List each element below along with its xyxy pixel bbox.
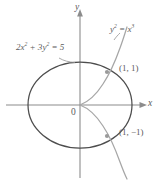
- origin-label: 0: [71, 108, 76, 118]
- plot-canvas: [0, 0, 160, 181]
- analytic-geometry-figure: y x 0 2x2 + 3y2 = 5 y2 = x3 (1, 1) (1, −…: [0, 0, 160, 181]
- cubic-equation-label: y2 = x3: [110, 25, 134, 34]
- point-label-lower: (1, −1): [119, 128, 144, 137]
- cubic-eq-exp2: 3: [131, 23, 134, 29]
- intersection-marker-lower: [105, 134, 109, 138]
- cubic-eq-mid: =: [117, 24, 128, 34]
- intersection-marker-upper: [105, 70, 109, 74]
- x-axis-label: x: [148, 99, 152, 109]
- cubic-lower-branch: [80, 105, 127, 179]
- ellipse-label-leader-line: [59, 58, 75, 63]
- y-axis-label: y: [75, 3, 79, 13]
- ellipse-eq-tail: = 5: [49, 42, 64, 52]
- point-label-upper: (1, 1): [119, 64, 139, 73]
- cubic-label-leader-line: [114, 33, 120, 40]
- ellipse-eq-mid: + 3: [27, 42, 42, 52]
- ellipse-equation-label: 2x2 + 3y2 = 5: [16, 43, 64, 52]
- x-axis-arrowhead-icon: [140, 102, 148, 108]
